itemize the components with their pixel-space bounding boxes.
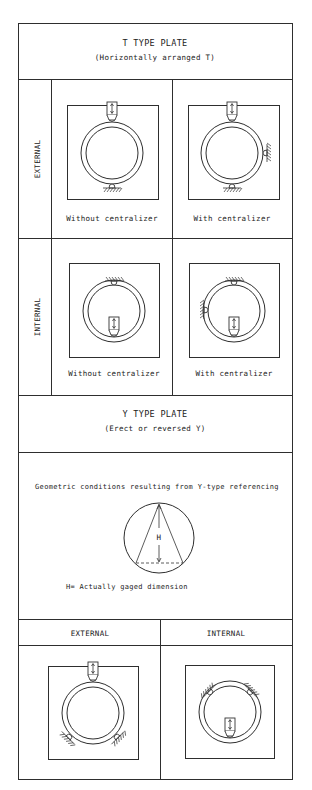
caption: Without centralizer xyxy=(68,369,160,378)
fixed-anvil-icon xyxy=(199,682,218,701)
gauge-probe-icon xyxy=(107,102,117,122)
gauge-probe-icon xyxy=(225,718,235,738)
gauge-probe-icon xyxy=(227,102,237,122)
fixed-anvil-icon xyxy=(223,184,242,192)
y-plate-subtitle: (Erect or reversed Y) xyxy=(104,424,205,433)
t-plate-header: T TYPE PLATE (Horizontally arranged T) xyxy=(95,38,215,62)
t-external-without-centralizer: Without centralizer xyxy=(66,102,158,223)
gauge-referencing-diagram: T TYPE PLATE (Horizontally arranged T) E… xyxy=(0,0,312,790)
t-plate-title: T TYPE PLATE xyxy=(122,38,187,48)
gauge-probe-icon xyxy=(229,317,239,337)
t-internal-without-centralizer: Without centralizer xyxy=(68,264,160,379)
caption: Without centralizer xyxy=(66,214,158,223)
dimension-symbol: H xyxy=(157,533,162,542)
caption: With centralizer xyxy=(193,214,270,223)
y-geometry-figure: Geometric conditions resulting from Y-ty… xyxy=(35,483,279,591)
t-plate-subtitle: (Horizontally arranged T) xyxy=(95,53,215,62)
fixed-anvil-icon xyxy=(103,184,122,192)
row-label-internal: INTERNAL xyxy=(33,298,42,337)
fixed-anvil-icon xyxy=(241,681,260,700)
centralizer-icon xyxy=(263,143,271,162)
t-internal-with-centralizer: With centralizer xyxy=(190,264,280,379)
gauge-probe-icon xyxy=(88,662,98,682)
y-plate-title: Y TYPE PLATE xyxy=(122,409,187,419)
y-column-label-internal: INTERNAL xyxy=(207,629,246,638)
caption: With centralizer xyxy=(195,369,272,378)
row-label-external: EXTERNAL xyxy=(33,140,42,179)
geometry-caption: Geometric conditions resulting from Y-ty… xyxy=(35,483,279,491)
centralizer-icon xyxy=(200,300,208,319)
y-external-figure xyxy=(49,662,139,760)
y-column-label-external: EXTERNAL xyxy=(71,629,110,638)
y-internal-figure xyxy=(186,666,275,759)
fixed-anvil-icon xyxy=(225,277,244,285)
y-plate-header: Y TYPE PLATE (Erect or reversed Y) xyxy=(104,409,205,433)
gauge-probe-icon xyxy=(109,317,119,337)
fixed-anvil-icon xyxy=(105,277,124,285)
t-external-with-centralizer: With centralizer xyxy=(189,102,280,223)
dimension-legend: H= Actually gaged dimension xyxy=(66,583,188,591)
